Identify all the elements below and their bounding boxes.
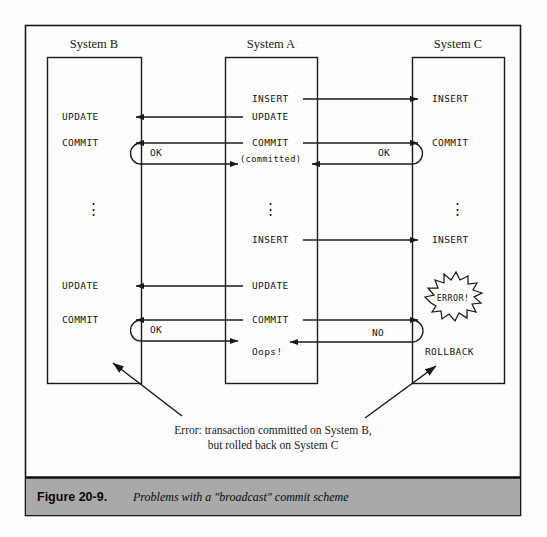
error-burst-label: ERROR! bbox=[437, 293, 470, 303]
system-c-title: System C bbox=[434, 37, 482, 51]
step-label: INSERT bbox=[252, 93, 289, 104]
step-label: COMMIT bbox=[432, 137, 469, 148]
ok-label-left-upper: OK bbox=[150, 147, 162, 158]
step-label: UPDATE bbox=[252, 280, 289, 291]
note-line-2: but rolled back on System C bbox=[208, 439, 339, 452]
system-a-title: System A bbox=[247, 37, 295, 51]
system-b-title: System B bbox=[70, 37, 118, 51]
step-label: INSERT bbox=[252, 234, 289, 245]
no-label-right-lower: NO bbox=[372, 327, 384, 338]
note-line-1: Error: transaction committed on System B… bbox=[174, 424, 372, 437]
step-label: COMMIT bbox=[62, 137, 99, 148]
step-label: ROLLBACK bbox=[425, 346, 474, 357]
step-label: UPDATE bbox=[62, 280, 99, 291]
ok-label-left-lower: OK bbox=[150, 324, 162, 335]
step-label: Oops! bbox=[252, 346, 283, 357]
step-label: COMMIT bbox=[252, 314, 289, 325]
figure-caption-number: Figure 20-9. bbox=[37, 490, 107, 504]
ok-label-right-upper: OK bbox=[378, 147, 390, 158]
step-label: COMMIT bbox=[252, 137, 289, 148]
step-label: UPDATE bbox=[252, 111, 289, 122]
step-label: UPDATE bbox=[62, 111, 99, 122]
step-label: INSERT bbox=[432, 93, 469, 104]
ellipsis-icon: ⋮ bbox=[263, 200, 278, 218]
ellipsis-icon: ⋮ bbox=[450, 200, 465, 218]
figure-caption-description: Problems with a "broadcast" commit schem… bbox=[132, 490, 349, 504]
step-label: INSERT bbox=[432, 234, 469, 245]
step-label: (committed) bbox=[240, 154, 301, 164]
figure-diagram: System B System A System C UPDATE COMMIT… bbox=[0, 0, 547, 537]
ellipsis-icon: ⋮ bbox=[86, 200, 101, 218]
figure-container: System B System A System C UPDATE COMMIT… bbox=[0, 0, 547, 537]
step-label: COMMIT bbox=[62, 314, 99, 325]
